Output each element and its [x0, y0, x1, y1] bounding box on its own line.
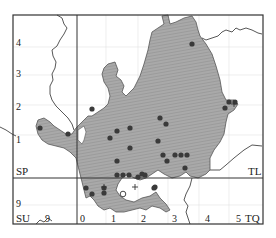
left-tick-1: 1 [16, 134, 21, 145]
left-tick-9: 9 [16, 198, 21, 209]
bottom-tick-1: 1 [111, 213, 116, 224]
bottom-tick-3: 3 [172, 213, 177, 224]
open-circle-record [120, 191, 126, 197]
distribution-map: 4 3 2 1 9 9 0 1 2 3 4 5 SP TL SU TQ [0, 0, 276, 238]
bottom-tick-0: 0 [80, 213, 85, 224]
bottom-tick-2: 2 [141, 213, 146, 224]
bottom-tick-4: 4 [205, 213, 210, 224]
left-tick-4: 4 [16, 37, 21, 48]
square-label-su: SU [16, 212, 30, 224]
square-label-sp: SP [16, 165, 28, 177]
square-label-tl: TL [248, 165, 262, 177]
square-label-tq: TQ [245, 212, 260, 224]
left-tick-2: 2 [16, 101, 21, 112]
bottom-tick-5: 5 [236, 213, 241, 224]
distribution-region [36, 15, 238, 212]
bottom-tick-9: 9 [45, 213, 50, 224]
left-tick-3: 3 [16, 68, 21, 79]
